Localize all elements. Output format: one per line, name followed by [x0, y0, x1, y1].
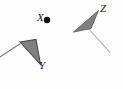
- label-y: Y: [39, 60, 45, 71]
- shape-z-tail-line: [87, 27, 110, 53]
- shape-y-triangle: [20, 40, 41, 65]
- label-z: Z: [100, 3, 106, 14]
- point-x-marker: [44, 17, 50, 23]
- shape-z-triangle: [74, 11, 99, 33]
- figure-canvas: X Y Z: [0, 0, 123, 89]
- shape-y-tail-line: [0, 44, 21, 58]
- label-x: X: [37, 12, 44, 23]
